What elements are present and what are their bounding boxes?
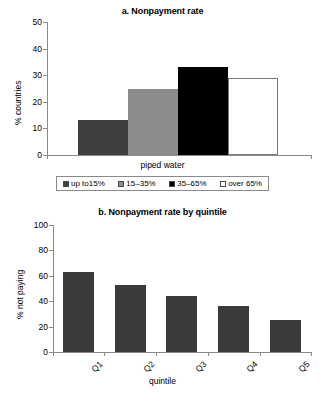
- legend-label-up-to-15: up to15%: [71, 180, 105, 188]
- panel-b-xtick-4: [260, 352, 261, 356]
- legend-swatch-35-65: [169, 181, 175, 187]
- panel-b-ytick-mark-80: [49, 250, 53, 251]
- panel-b-ytick-mark-40: [49, 301, 53, 302]
- panel-a-x-axis-line: [47, 155, 312, 156]
- panel-b-xtick-0: [53, 352, 54, 356]
- xcat-panel-b-q4: Q4: [244, 359, 259, 374]
- panel-a-ytick-mark-50: [43, 22, 47, 23]
- bar-panel-b-q3: [166, 296, 197, 352]
- panel-b-title: b. Nonpayment rate by quintile: [0, 207, 325, 217]
- panel-b-xtick-3: [208, 352, 209, 356]
- xcat-panel-b-q1: Q1: [89, 359, 104, 374]
- bar-panel-b-q2: [115, 285, 146, 352]
- bar-panel-a-over-65: [228, 78, 278, 155]
- legend-item-15-35[interactable]: 15–35%: [118, 180, 155, 188]
- panel-a-ytick-30: 30: [20, 71, 42, 80]
- panel-a-ytick-10: 10: [20, 124, 42, 133]
- bar-panel-b-q1: [63, 272, 94, 352]
- panel-b-xtick-2: [156, 352, 157, 356]
- panel-b: b. Nonpayment rate by quintile % not pay…: [0, 196, 325, 393]
- panel-a-xtick-right: [311, 155, 312, 159]
- panel-b-ytick-100: 100: [22, 221, 48, 230]
- panel-b-ytick-60: 60: [22, 272, 48, 281]
- panel-a-ytick-mark-10: [43, 128, 47, 129]
- legend-label-over-65: over 65%: [228, 180, 262, 188]
- bar-panel-a-15-35: [128, 89, 178, 156]
- panel-a-ytick-40: 40: [20, 45, 42, 54]
- panel-a-ytick-50: 50: [20, 18, 42, 27]
- panel-a-ytick-mark-30: [43, 75, 47, 76]
- bar-panel-a-up-to-15: [78, 120, 128, 155]
- legend-swatch-15-35: [118, 181, 124, 187]
- panel-a: a. Nonpayment rate % countries 50 40 30 …: [0, 0, 325, 196]
- xcat-panel-b-q3: Q3: [193, 359, 208, 374]
- bar-panel-b-q5: [270, 320, 301, 352]
- panel-b-x-axis-title: quintile: [0, 376, 325, 386]
- panel-b-ytick-mark-60: [49, 276, 53, 277]
- panel-b-ytick-mark-20: [49, 327, 53, 328]
- panel-b-y-axis-line: [53, 225, 54, 353]
- xcat-panel-b-q5: Q5: [296, 359, 311, 374]
- panel-b-ytick-20: 20: [22, 323, 48, 332]
- panel-b-xtick-5: [311, 352, 312, 356]
- panel-b-x-axis-line: [53, 352, 312, 353]
- xcat-panel-b-q2: Q2: [141, 359, 156, 374]
- panel-b-ytick-0: 0: [22, 348, 48, 357]
- panel-a-y-axis-line: [47, 22, 48, 156]
- panel-b-ytick-mark-100: [49, 225, 53, 226]
- panel-a-x-axis-title: piped water: [0, 160, 325, 170]
- panel-a-ytick-20: 20: [20, 98, 42, 107]
- panel-a-ytick-mark-40: [43, 49, 47, 50]
- legend-item-35-65[interactable]: 35–65%: [169, 180, 206, 188]
- panel-a-ytick-0: 0: [20, 151, 42, 160]
- figure-container: a. Nonpayment rate % countries 50 40 30 …: [0, 0, 325, 393]
- panel-b-ytick-40: 40: [22, 297, 48, 306]
- panel-a-ytick-mark-20: [43, 102, 47, 103]
- bar-panel-a-35-65: [178, 67, 228, 155]
- bar-panel-b-q4: [218, 306, 249, 352]
- panel-b-ytick-80: 80: [22, 246, 48, 255]
- panel-a-xtick-left: [47, 155, 48, 159]
- panel-a-title: a. Nonpayment rate: [0, 6, 325, 16]
- legend-label-35-65: 35–65%: [177, 180, 206, 188]
- legend-swatch-over-65: [220, 181, 226, 187]
- legend-label-15-35: 15–35%: [126, 180, 155, 188]
- legend-swatch-up-to-15: [63, 181, 69, 187]
- legend-item-over-65[interactable]: over 65%: [220, 180, 262, 188]
- panel-b-xtick-1: [104, 352, 105, 356]
- panel-a-legend: up to15% 15–35% 35–65% over 65%: [56, 176, 269, 191]
- legend-item-up-to-15[interactable]: up to15%: [63, 180, 105, 188]
